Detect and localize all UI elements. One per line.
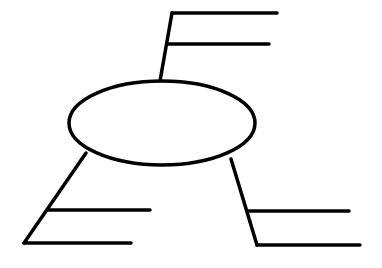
branch-bottom-left-stem bbox=[24, 153, 86, 243]
branch-top bbox=[160, 13, 277, 81]
graphic-organizer-diagram bbox=[0, 0, 382, 268]
branch-bottom-right bbox=[231, 159, 360, 245]
branch-bottom-right-stem bbox=[231, 159, 257, 245]
branch-bottom-left bbox=[24, 153, 150, 243]
branch-top-stem bbox=[160, 13, 172, 81]
center-ellipse bbox=[69, 81, 255, 165]
